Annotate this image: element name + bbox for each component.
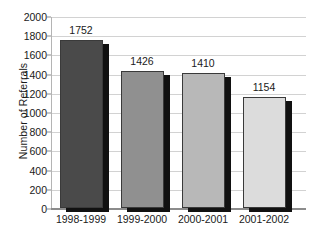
bar-fill (121, 71, 164, 208)
plot-area: 2000180016001400120010008006004002000 17… (51, 17, 306, 209)
y-axis-tick-label: 1400 (24, 69, 47, 81)
bar[interactable]: 1752 (60, 40, 103, 208)
bar[interactable]: 1426 (121, 71, 164, 208)
gridline (51, 36, 306, 37)
y-axis-tick-label: 1800 (24, 30, 47, 42)
x-axis-tick-label: 2000-2001 (178, 213, 228, 225)
bar-value-label: 1426 (130, 55, 153, 67)
bar-fill (60, 40, 103, 208)
bar-fill (182, 73, 225, 208)
y-axis-tick-label: 1600 (24, 49, 47, 61)
bar-fill (243, 97, 286, 208)
y-axis-tick-label: 800 (29, 126, 47, 138)
x-axis-tick-label: 1998-1999 (56, 213, 106, 225)
y-axis-tick-label: 400 (29, 165, 47, 177)
x-axis-tick-label: 2001-2002 (239, 213, 289, 225)
bar-value-label: 1410 (191, 57, 214, 69)
bar[interactable]: 1410 (182, 73, 225, 208)
gridline (51, 17, 306, 18)
bar-value-label: 1752 (69, 24, 92, 36)
x-axis-tick-label: 1999-2000 (117, 213, 167, 225)
bar-chart: Number of Referrals 20001800160014001200… (0, 0, 314, 236)
y-axis-tick-label: 200 (29, 184, 47, 196)
bar[interactable]: 1154 (243, 97, 286, 208)
y-axis-line (51, 17, 52, 209)
y-axis-tick-label: 1200 (24, 88, 47, 100)
y-axis-tick-label: 2000 (24, 11, 47, 23)
bar-value-label: 1154 (253, 81, 276, 93)
y-axis-tick-label: 600 (29, 145, 47, 157)
y-axis-tick-label: 1000 (24, 107, 47, 119)
y-axis-tick-label: 0 (41, 203, 47, 215)
